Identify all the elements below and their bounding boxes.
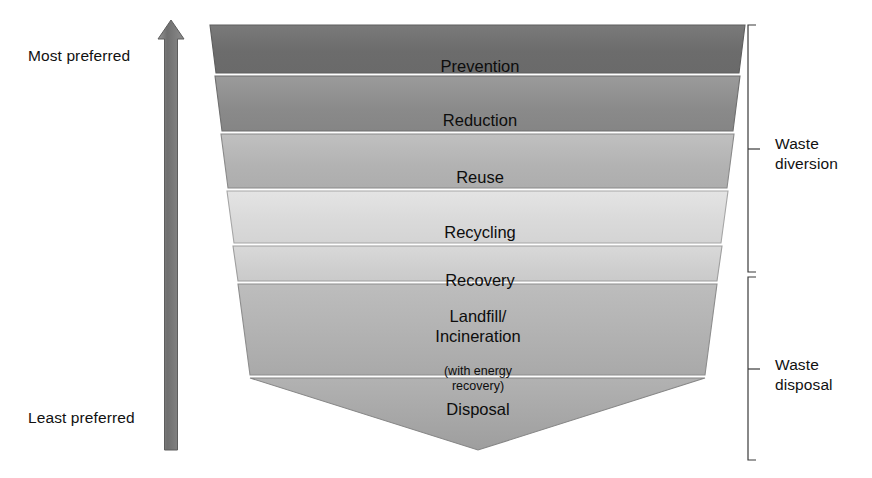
tier-band-prevention [210, 25, 745, 73]
preference-arrow-icon [158, 20, 184, 450]
tier-band-recycling [227, 191, 728, 243]
waste-hierarchy-diagram: Most preferred Least preferred Waste div… [0, 0, 872, 478]
tier-band-reuse [221, 134, 734, 188]
tier-band-reduction [215, 76, 740, 131]
tier-band-recovery [233, 246, 722, 281]
tier-band-landfill-incineration [238, 284, 717, 375]
tier-band-disposal [250, 378, 705, 450]
pyramid-bands [210, 25, 745, 450]
diagram-artwork [0, 0, 872, 478]
bracket-waste-disposal [748, 277, 760, 460]
bracket-waste-diversion [748, 25, 760, 272]
